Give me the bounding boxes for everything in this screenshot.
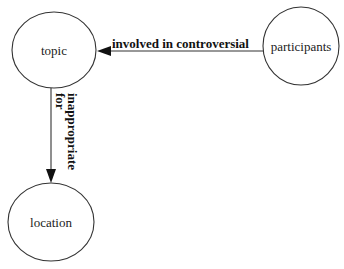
edge-topic-location: inappropriate for [46,88,80,183]
node-topic[interactable]: topic [12,12,96,88]
edge-label-involved-in-controversial: involved in controversial [112,36,249,51]
node-location-label: location [30,215,72,230]
node-topic-label: topic [41,43,67,58]
diagram-canvas: involved in controversial inappropriate … [0,0,344,269]
node-participants-label: participants [271,39,332,54]
edge-label-for: for [53,93,68,110]
node-participants[interactable]: participants [263,7,339,85]
arrowhead-down-icon [46,169,56,183]
edge-participants-topic: involved in controversial [97,36,263,56]
arrowhead-left-icon [97,46,111,56]
node-location[interactable]: location [8,183,94,261]
